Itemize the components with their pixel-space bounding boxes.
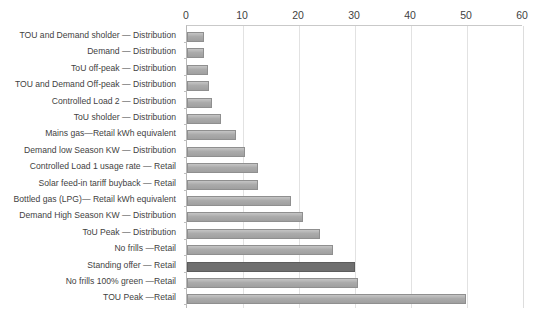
category-label: Demand low Season KW — Distribution [0,142,180,158]
bar[interactable] [187,98,212,108]
category-label: TOU Peak —Retail [0,289,180,305]
bar-row [187,226,522,242]
category-label: ToU Peak — Distribution [0,224,180,240]
x-axis-tick-10: 10 [236,9,248,21]
x-axis-tick-60: 60 [516,9,528,21]
bar-row [187,291,522,307]
category-label: ToU off-peak — Distribution [0,60,180,76]
bar[interactable] [187,114,221,124]
bar[interactable] [187,163,258,173]
gridline-60 [523,26,524,308]
category-label: Standing offer — Retail [0,257,180,273]
bar-row [187,177,522,193]
bar-row [187,193,522,209]
bar-row [187,95,522,111]
bar-row [187,62,522,78]
x-axis-tick-0: 0 [183,9,189,21]
bar[interactable] [187,278,358,288]
x-axis-tick-30: 30 [348,9,360,21]
x-axis-tick-40: 40 [404,9,416,21]
category-label: TOU and Demand sholder — Distribution [0,27,180,43]
bar[interactable] [187,65,208,75]
category-label: No frills —Retail [0,240,180,256]
x-axis-tick-20: 20 [292,9,304,21]
x-axis-tick-labels: 0102030405060 [0,9,533,23]
bar-row [187,78,522,94]
category-label: ToU sholder — Distribution [0,109,180,125]
bar-chart: 0102030405060 TOU and Demand sholder — D… [0,0,533,314]
bar-series [187,26,522,308]
bar-row [187,127,522,143]
bar[interactable] [187,81,209,91]
category-label: TOU and Demand Off-peak — Distribution [0,76,180,92]
x-axis-tick-50: 50 [460,9,472,21]
bar-row [187,45,522,61]
bar[interactable] [187,212,303,222]
bar[interactable] [187,262,355,272]
bar-row [187,144,522,160]
category-label: Bottled gas (LPG)— Retail kWh equivalent [0,191,180,207]
bar[interactable] [187,294,466,304]
bar[interactable] [187,130,236,140]
bar-row [187,29,522,45]
bar[interactable] [187,245,333,255]
category-axis-labels: TOU and Demand sholder — DistributionDem… [0,25,180,308]
category-label: Demand High Season KW — Distribution [0,207,180,223]
category-label: No frills 100% green —Retail [0,273,180,289]
bar[interactable] [187,229,320,239]
bar[interactable] [187,180,258,190]
category-label: Demand — Distribution [0,43,180,59]
bar-row [187,111,522,127]
bar-row [187,242,522,258]
bar-row [187,160,522,176]
category-label: Solar feed-in tariff buyback — Retail [0,175,180,191]
chart-title-clipped [0,0,533,6]
category-label: Controlled Load 1 usage rate — Retail [0,158,180,174]
bar-row [187,259,522,275]
bar[interactable] [187,48,204,58]
bar-row [187,275,522,291]
plot-area [186,25,522,308]
bar[interactable] [187,32,204,42]
category-label: Controlled Load 2 — Distribution [0,93,180,109]
bar[interactable] [187,147,245,157]
bar[interactable] [187,196,291,206]
category-label: Mains gas—Retail kWh equivalent [0,125,180,141]
bar-row [187,209,522,225]
